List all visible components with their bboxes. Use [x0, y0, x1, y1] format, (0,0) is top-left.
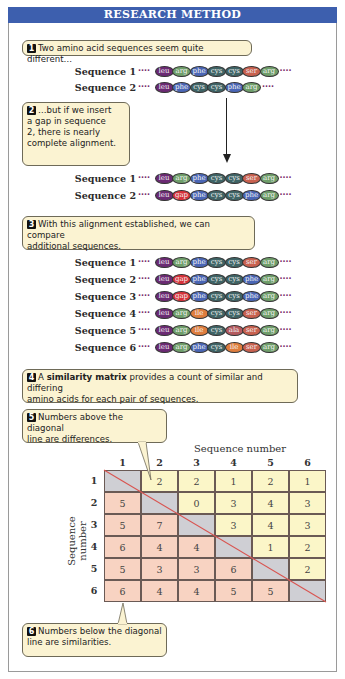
matrix-cell-diagonal	[289, 580, 326, 602]
amino-acid-arg: arg	[172, 325, 191, 336]
column-header: 6	[289, 457, 326, 468]
row-header: 3	[88, 519, 100, 530]
callout-step-4: 4A similarity matrix provides a count of…	[22, 369, 298, 403]
sequence-label: Sequence 2	[70, 190, 136, 201]
matrix-cell-diagonal	[178, 514, 215, 536]
step-number-2: 2	[27, 106, 36, 115]
matrix-cell-similarity: 7	[141, 514, 178, 536]
matrix-cell-similarity: 6	[104, 536, 141, 558]
amino-acid-leu: leu	[155, 173, 174, 184]
arrowhead-icon	[223, 154, 231, 163]
amino-acid-phe: phe	[190, 274, 209, 285]
amino-acid-cys: cys	[207, 274, 226, 285]
dots-connector: ····	[280, 325, 298, 335]
amino-acid-phe: phe	[190, 257, 209, 268]
amino-acid-cys: cys	[207, 308, 226, 319]
matrix-cell-difference: 3	[215, 492, 252, 514]
amino-acid-cys: cys	[207, 291, 226, 302]
amino-acid-phe: phe	[190, 173, 209, 184]
sequence-label: Sequence 1	[70, 173, 136, 184]
callout-text: 2, there is nearly	[27, 127, 100, 137]
amino-acid-phe: phe	[242, 190, 261, 201]
amino-acid-cys: cys	[225, 257, 244, 268]
amino-acid-phe: phe	[172, 82, 191, 93]
amino-acid-ser: ser	[242, 66, 261, 77]
matrix-cell-similarity: 6	[215, 558, 252, 580]
amino-acid-arg: arg	[242, 82, 261, 93]
amino-acid-arg: arg	[260, 325, 279, 336]
callout-text: Numbers above the diagonal	[27, 412, 123, 433]
dots-connector: ····	[280, 308, 298, 318]
amino-acid-gap: gap	[172, 291, 191, 302]
callout-text: additional sequences.	[27, 241, 121, 251]
callout-step-6: 6Numbers below the diagonal line are sim…	[22, 623, 167, 657]
amino-acid-cys: cys	[207, 257, 226, 268]
amino-acid-cys: cys	[207, 66, 226, 77]
dots-connector: ····	[280, 66, 298, 76]
amino-acid-cys: cys	[225, 173, 244, 184]
amino-acid-cys: cys	[190, 82, 209, 93]
amino-acid-cys: cys	[207, 342, 226, 353]
amino-acid-ser: ser	[242, 173, 261, 184]
row-header: 2	[88, 497, 100, 508]
matrix-cell-difference: 2	[252, 470, 289, 492]
amino-acid-ser: ser	[242, 308, 261, 319]
amino-acid-phe: phe	[190, 190, 209, 201]
sequence-row: Sequence 3····leugapphecyscysphearg····	[70, 290, 298, 302]
dots-connector: ····	[138, 274, 156, 284]
amino-acid-phe: phe	[190, 291, 209, 302]
amino-acid-ala: ala	[225, 325, 244, 336]
matrix-cell-diagonal	[104, 470, 141, 492]
amino-acid-cys: cys	[225, 190, 244, 201]
amino-acid-gap: gap	[172, 274, 191, 285]
matrix-cell-difference: 2	[289, 536, 326, 558]
amino-acid-phe: phe	[242, 274, 261, 285]
row-header: 6	[88, 585, 100, 596]
step-number-5: 5	[27, 413, 36, 422]
matrix-cell-difference: 3	[289, 492, 326, 514]
column-header: 4	[215, 457, 252, 468]
dots-connector: ····	[138, 291, 156, 301]
term-similarity-matrix: similarity matrix	[47, 372, 127, 382]
amino-acid-leu: leu	[155, 342, 174, 353]
amino-acid-phe: phe	[225, 82, 244, 93]
dots-connector: ····	[280, 342, 298, 352]
matrix-cell-difference: 1	[289, 470, 326, 492]
dots-connector: ····	[138, 342, 156, 352]
callout-text: line are similarities.	[27, 637, 111, 647]
column-header: 5	[252, 457, 289, 468]
callout-text: complete alignment.	[27, 138, 116, 148]
column-header: 3	[178, 457, 215, 468]
sequence-row: Sequence 4····leuargilecyscysserarg····	[70, 307, 298, 319]
amino-acid-leu: leu	[155, 308, 174, 319]
down-arrow-icon	[226, 98, 227, 156]
matrix-cell-similarity: 5	[104, 492, 141, 514]
sequence-label: Sequence 2	[70, 82, 136, 93]
matrix-cell-difference: 2	[289, 558, 326, 580]
matrix-cell-similarity: 5	[104, 514, 141, 536]
matrix-cell-difference: 3	[215, 514, 252, 536]
sequence-row: Sequence 2····leuphecyscysphearg····	[70, 81, 280, 93]
matrix-cell-diagonal	[215, 536, 252, 558]
matrix-cell-diagonal	[141, 492, 178, 514]
amino-acid-leu: leu	[155, 66, 174, 77]
amino-acid-arg: arg	[172, 173, 191, 184]
amino-acid-arg: arg	[172, 66, 191, 77]
y-axis-label: Sequence number	[66, 496, 88, 586]
matrix-cell-difference: 3	[289, 514, 326, 536]
matrix-cell-similarity: 3	[178, 558, 215, 580]
amino-acid-leu: leu	[155, 257, 174, 268]
callout-step-5: 5Numbers above the diagonal line are dif…	[22, 409, 167, 443]
amino-acid-arg: arg	[260, 308, 279, 319]
sequence-row: Sequence 1····leuargphecyscysserarg····	[70, 65, 298, 77]
amino-acid-arg: arg	[260, 291, 279, 302]
amino-acid-leu: leu	[155, 274, 174, 285]
sequence-row: Sequence 1····leuargphecyscysserarg····	[70, 256, 298, 268]
matrix-cell-similarity: 5	[252, 580, 289, 602]
matrix-cell-difference: 4	[252, 492, 289, 514]
callout-text: a gap in sequence	[27, 116, 106, 126]
callout-text: A	[38, 372, 47, 382]
amino-acid-cys: cys	[207, 82, 226, 93]
amino-acid-arg: arg	[260, 173, 279, 184]
dots-connector: ····	[262, 82, 280, 92]
